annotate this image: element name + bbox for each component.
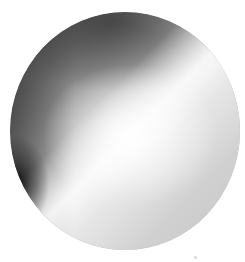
gray-sphere — [10, 12, 240, 250]
background-speck — [194, 256, 197, 259]
sphere-rim-shade — [10, 12, 240, 250]
